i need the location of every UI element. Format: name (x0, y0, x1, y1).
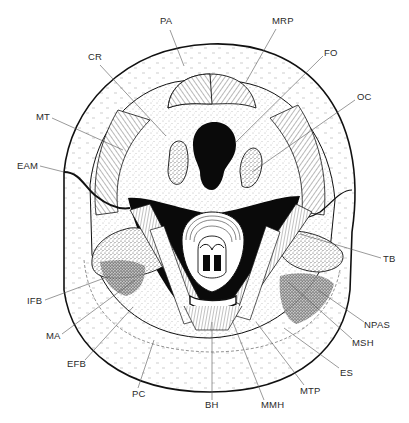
label-pc: PC (132, 388, 146, 399)
label-mrp: MRP (272, 15, 294, 26)
label-mmh: MMH (261, 399, 284, 410)
label-efb: EFB (67, 358, 86, 369)
label-fo: FO (324, 47, 338, 58)
label-es: ES (340, 367, 353, 378)
label-cr: CR (88, 51, 102, 62)
label-mtp: MTP (300, 385, 321, 396)
label-msh: MSH (352, 337, 374, 348)
leader-line-eam (40, 166, 64, 172)
anatomical-diagram: PAMRPCRFOMTOCEAMTBIFBNPASMSHMAESEFBMTPPC… (0, 0, 409, 423)
label-bh: BH (205, 399, 219, 410)
label-eam: EAM (17, 160, 38, 171)
label-npas: NPAS (364, 319, 390, 330)
label-tb: TB (383, 253, 396, 264)
label-ifb: IFB (27, 295, 42, 306)
label-ma: MA (46, 330, 61, 341)
label-oc: OC (357, 91, 372, 102)
label-pa: PA (160, 15, 173, 26)
label-mt: MT (36, 111, 50, 122)
